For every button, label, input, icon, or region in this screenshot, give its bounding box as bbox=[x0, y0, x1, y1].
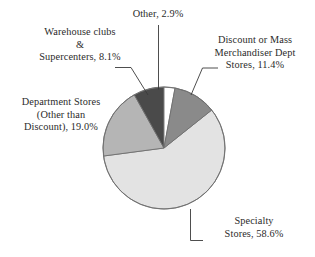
pie-chart-figure: Other, 2.9% Warehouse clubs & Supercente… bbox=[0, 0, 315, 257]
pie-label-warehouse-clubs-line-1: Warehouse clubs bbox=[16, 26, 144, 39]
pie-label-department-line-3: Discount), 19.0% bbox=[2, 121, 120, 134]
leader-line-discount-mass-merchandiser bbox=[191, 68, 218, 95]
pie-label-discount-line-3: Stores, 11.4% bbox=[196, 59, 314, 72]
pie-label-specialty-line-1: Specialty bbox=[202, 215, 306, 228]
pie-label-department-line-1: Department Stores bbox=[2, 96, 120, 109]
pie-label-specialty-stores: Specialty Stores, 58.6% bbox=[202, 215, 306, 240]
pie-label-specialty-line-2: Stores, 58.6% bbox=[202, 228, 306, 241]
pie-label-discount-mass-merchandiser: Discount or Mass Merchandiser Dept Store… bbox=[196, 34, 314, 72]
pie-label-department-line-2: (Other than bbox=[2, 109, 120, 122]
pie-label-warehouse-clubs-line-2: & bbox=[16, 39, 144, 52]
pie-label-other: Other, 2.9% bbox=[108, 8, 208, 21]
pie-label-discount-line-2: Merchandiser Dept bbox=[196, 47, 314, 60]
pie-label-other-line-1: Other, 2.9% bbox=[108, 8, 208, 21]
pie-label-department-stores: Department Stores (Other than Discount),… bbox=[2, 96, 120, 134]
pie-label-warehouse-clubs: Warehouse clubs & Supercenters, 8.1% bbox=[16, 26, 144, 64]
pie-label-warehouse-clubs-line-3: Supercenters, 8.1% bbox=[16, 51, 144, 64]
pie-label-discount-line-1: Discount or Mass bbox=[196, 34, 314, 47]
